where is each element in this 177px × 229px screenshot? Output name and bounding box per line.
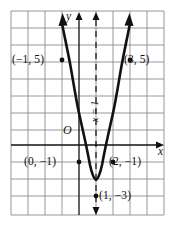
y-axis-label: y <box>66 11 71 23</box>
point-0-neg1 <box>77 160 82 165</box>
point-label-3-5: (3, 5) <box>124 54 150 66</box>
grid-lines <box>11 11 164 215</box>
curve-arrow-right <box>125 13 134 26</box>
parabola-figure: (−1, 5) (3, 5) (0, −1) (2, −1) (1, −3) x… <box>0 0 177 229</box>
origin-label: O <box>63 124 72 136</box>
y-axis-arrow <box>76 12 83 20</box>
symmetry-arrow-bottom <box>93 207 100 215</box>
point-label-2-neg1: (2, −1) <box>109 156 141 168</box>
point-1-neg3 <box>94 194 99 199</box>
x-axis-label: x <box>158 146 163 158</box>
symmetry-arrow-top <box>93 12 100 20</box>
point-label-0-neg1: (0, −1) <box>24 156 56 168</box>
point-label-neg1-5: (−1, 5) <box>12 54 44 66</box>
point-neg1-5 <box>60 58 65 63</box>
axis-of-symmetry-label: x = 1 <box>90 101 100 122</box>
axes <box>11 12 164 215</box>
point-label-1-neg3: (1, −3) <box>99 190 131 202</box>
